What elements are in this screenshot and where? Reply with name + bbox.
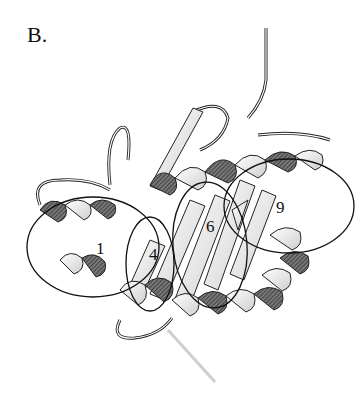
faint-coil [168, 330, 215, 382]
svg-text:4: 4 [149, 245, 158, 264]
region-1: 1 [27, 197, 159, 297]
svg-text:9: 9 [276, 198, 285, 217]
svg-text:1: 1 [96, 239, 105, 258]
beta-strands [126, 108, 276, 305]
terminal-coil [248, 28, 266, 118]
svg-text:6: 6 [206, 217, 215, 236]
protein-ribbon-diagram: 1 4 6 9 [0, 0, 357, 398]
helix-right [262, 228, 309, 291]
